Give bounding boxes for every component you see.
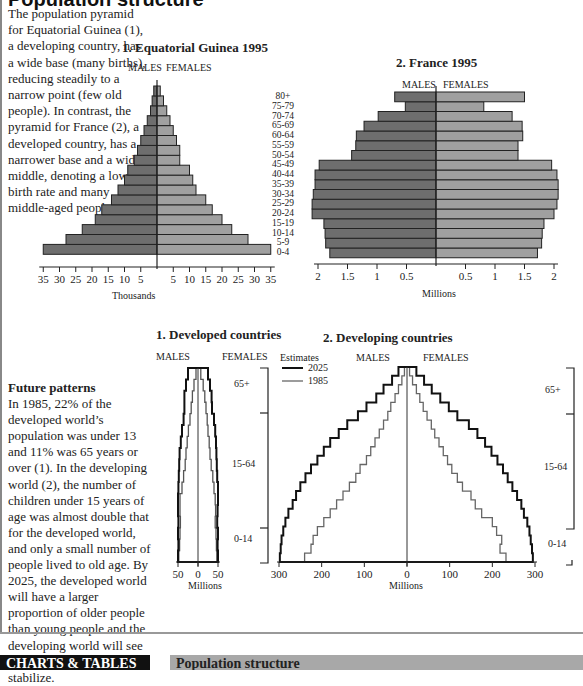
svg-text:15: 15	[103, 273, 115, 285]
dvg-band-65-label: 65+	[545, 384, 561, 395]
svg-text:25: 25	[70, 273, 82, 285]
svg-text:10: 10	[184, 273, 196, 285]
svg-text:50: 50	[173, 568, 185, 580]
svg-text:15: 15	[200, 273, 212, 285]
svg-text:15-19: 15-19	[272, 218, 294, 228]
svg-text:1: 1	[492, 270, 498, 282]
dev-females-label: FEMALES	[222, 351, 268, 362]
svg-text:100: 100	[356, 568, 373, 580]
svg-text:30: 30	[54, 273, 66, 285]
svg-text:25: 25	[233, 273, 245, 285]
svg-text:0.5: 0.5	[459, 270, 473, 282]
svg-text:25-29: 25-29	[272, 198, 294, 208]
svg-text:20: 20	[87, 273, 99, 285]
fr-males-label: MALES	[402, 79, 436, 90]
dvg-band-15-64-label: 15-64	[544, 461, 567, 472]
svg-text:50-54: 50-54	[272, 150, 294, 160]
dvg-females-label: FEMALES	[423, 352, 469, 363]
svg-text:1.5: 1.5	[341, 270, 355, 282]
future-patterns-section: Future patterns In 1985, 22% of the deve…	[8, 380, 156, 686]
svg-text:5: 5	[138, 273, 144, 285]
svg-text:0.5: 0.5	[400, 270, 414, 282]
svg-text:65-69: 65-69	[272, 120, 294, 130]
future-patterns-text: In 1985, 22% of the developed world’s po…	[8, 396, 156, 686]
svg-text:5: 5	[171, 273, 177, 285]
svg-text:80+: 80+	[276, 91, 291, 101]
future-patterns-heading: Future patterns	[8, 380, 156, 396]
eg-thousands-label: Thousands	[112, 290, 155, 301]
svg-text:200: 200	[484, 568, 501, 580]
section-tag: Population structure	[170, 655, 583, 670]
svg-text:50: 50	[213, 568, 225, 580]
dev-band-0-14-label: 0-14	[234, 533, 252, 544]
fr-millions-label: Millions	[422, 288, 456, 299]
svg-text:70-74: 70-74	[272, 111, 294, 121]
svg-text:1: 1	[374, 270, 380, 282]
svg-text:20: 20	[217, 273, 229, 285]
chart-title-developed: 1. Developed countries	[156, 327, 281, 343]
svg-text:35: 35	[265, 273, 277, 285]
svg-text:30-34: 30-34	[272, 189, 294, 199]
bottom-divider	[0, 632, 583, 634]
svg-text:35-39: 35-39	[272, 179, 294, 189]
svg-text:10-14: 10-14	[272, 228, 294, 238]
svg-text:300: 300	[527, 568, 544, 580]
svg-text:0: 0	[195, 568, 201, 580]
svg-text:0: 0	[404, 568, 410, 580]
svg-text:5-9: 5-9	[277, 237, 290, 247]
chart-title-france: 2. France 1995	[396, 55, 477, 71]
svg-text:2: 2	[551, 270, 557, 282]
svg-text:1.5: 1.5	[518, 270, 532, 282]
svg-text:30: 30	[249, 273, 261, 285]
fr-females-label: FEMALES	[443, 79, 489, 90]
dev-millions-label: Millions	[188, 580, 222, 591]
svg-text:45-49: 45-49	[272, 159, 294, 169]
dev-males-label: MALES	[156, 351, 190, 362]
svg-text:55-59: 55-59	[272, 140, 294, 150]
dvg-millions-label: Millions	[389, 580, 423, 591]
chart-title-developing: 2. Developing countries	[323, 330, 453, 346]
dvg-males-label: MALES	[356, 352, 390, 363]
svg-text:0-4: 0-4	[277, 247, 290, 257]
category-tag: CHARTS & TABLES	[0, 655, 150, 670]
dev-band-15-64-label: 15-64	[232, 458, 255, 469]
dvg-band-0-14-label: 0-14	[548, 538, 566, 549]
svg-text:100: 100	[441, 568, 458, 580]
svg-text:20-24: 20-24	[272, 208, 294, 218]
svg-text:60-64: 60-64	[272, 130, 294, 140]
svg-text:2: 2	[315, 270, 321, 282]
svg-text:35: 35	[38, 273, 50, 285]
svg-text:40-44: 40-44	[272, 169, 294, 179]
legend-1985-label: 1985	[308, 375, 328, 386]
svg-text:300: 300	[271, 568, 288, 580]
svg-text:10: 10	[119, 273, 131, 285]
svg-text:200: 200	[313, 568, 330, 580]
dev-band-65-label: 65+	[234, 378, 250, 389]
legend-2025-label: 2025	[308, 362, 328, 373]
svg-text:75-79: 75-79	[272, 101, 294, 111]
